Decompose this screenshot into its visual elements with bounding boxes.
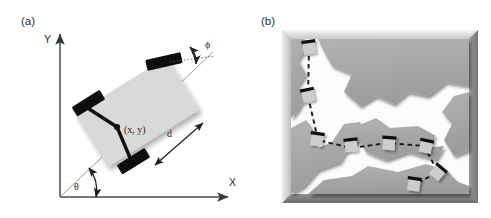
frame-bevel-left	[282, 30, 291, 203]
reference-point-dot	[114, 124, 120, 130]
y-axis-label: Y	[44, 33, 51, 45]
frame-bevel-top	[282, 30, 478, 39]
wheelbase-label: d	[167, 128, 172, 139]
frame-bevel-bottom	[282, 194, 478, 203]
robot-pose	[343, 137, 358, 152]
steering-angle-label: ϕ	[205, 39, 210, 50]
robot-pose	[382, 136, 397, 151]
pose-body	[383, 138, 396, 151]
panel-b-diagram: (b)	[248, 0, 491, 218]
x-axis-label: X	[229, 176, 236, 188]
steering-angle-arc	[190, 47, 196, 64]
frame-bevel-right	[469, 30, 478, 203]
panel-a-kinematic-model: ϕ θ d (x, y) X Y (a)	[0, 0, 248, 218]
reference-point-label: (x, y)	[124, 124, 146, 136]
panel-a-diagram: ϕ θ d (x, y) X Y (a)	[0, 0, 248, 218]
panel-a-label: (a)	[21, 15, 35, 27]
heading-angle-arc	[89, 168, 97, 197]
figure-root: ϕ θ d (x, y) X Y (a)	[0, 0, 491, 218]
heading-angle-label: θ	[74, 181, 79, 192]
panel-b-path-plan: (b)	[248, 0, 491, 218]
panel-b-label: (b)	[261, 15, 275, 27]
workspace-interior	[291, 39, 469, 194]
